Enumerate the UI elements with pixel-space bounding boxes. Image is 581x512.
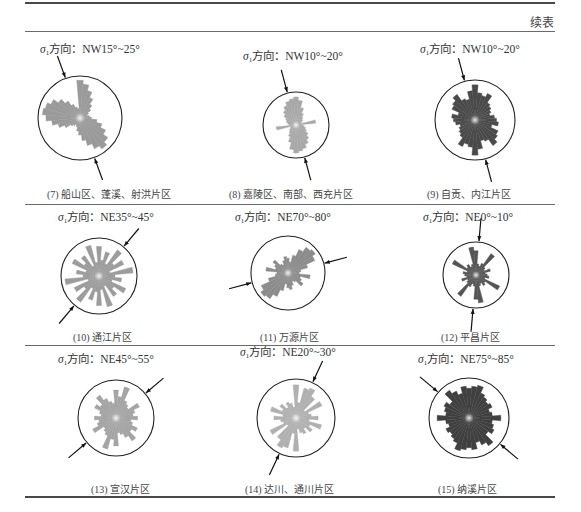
rose-diagram-15 xyxy=(0,0,581,512)
